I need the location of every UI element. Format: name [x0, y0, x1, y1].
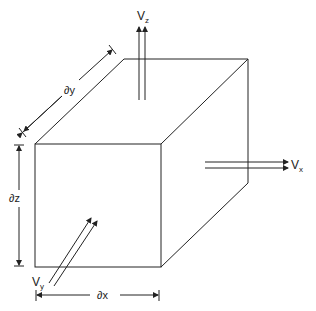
vy-label: Vy: [32, 275, 44, 291]
cube-diagram: Vz Vx Vy ∂y ∂z ∂x: [0, 0, 316, 311]
dx-label: ∂x: [97, 289, 108, 301]
vz-label: Vz: [137, 9, 149, 25]
vz-arrows: [139, 27, 145, 100]
vx-arrows: [205, 162, 288, 168]
vx-label: Vx: [291, 158, 303, 174]
top-face-edges: [35, 59, 248, 144]
vy-arrows: [49, 218, 97, 286]
front-face: [35, 144, 161, 267]
dz-label: ∂z: [9, 192, 20, 204]
dy-label: ∂y: [64, 84, 75, 96]
right-face-edges: [161, 59, 248, 267]
dz-dimension: [14, 145, 24, 266]
